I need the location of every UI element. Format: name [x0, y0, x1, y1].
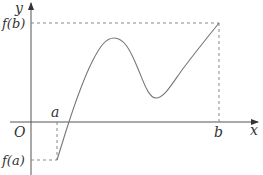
- function-graph: y x O a b f(b) f(a): [0, 0, 263, 175]
- function-curve: [57, 23, 219, 160]
- origin-label: O: [14, 124, 26, 140]
- fa-label: f(a): [1, 153, 25, 168]
- y-axis-label: y: [14, 0, 24, 16]
- a-label: a: [51, 104, 59, 120]
- b-label: b: [214, 124, 223, 140]
- x-axis-label: x: [250, 122, 258, 138]
- fb-label: f(b): [1, 16, 25, 31]
